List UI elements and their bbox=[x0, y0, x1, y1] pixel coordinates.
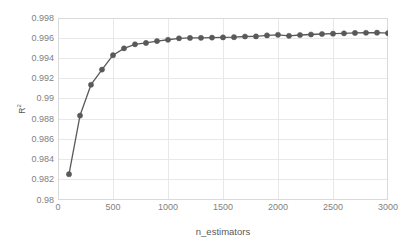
plot-area bbox=[58, 18, 388, 200]
data-point-markers bbox=[66, 30, 388, 177]
y-axis-title-exponent: 2 bbox=[16, 104, 22, 107]
x-tick-label: 1000 bbox=[148, 203, 188, 212]
chart-container: 0.980.9820.9840.9860.9880.990.9920.9940.… bbox=[0, 0, 415, 246]
y-axis-title-text: R bbox=[17, 108, 27, 114]
x-tick-label: 1500 bbox=[203, 203, 243, 212]
gridlines bbox=[58, 18, 388, 200]
x-tick-label: 3000 bbox=[368, 203, 408, 212]
x-axis-title: n_estimators bbox=[58, 226, 388, 237]
y-axis-title: R2 bbox=[17, 89, 27, 129]
x-tick-label: 0 bbox=[38, 203, 78, 212]
x-tick-label: 2000 bbox=[258, 203, 298, 212]
x-tick-label: 2500 bbox=[313, 203, 353, 212]
x-tick-label: 500 bbox=[93, 203, 133, 212]
data-series-line bbox=[69, 33, 388, 175]
